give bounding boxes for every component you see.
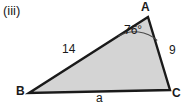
part-label: (iii): [3, 4, 20, 17]
vertex-label-a: A: [141, 1, 150, 13]
vertex-label-b: B: [16, 85, 25, 97]
vertex-label-c: C: [172, 87, 181, 99]
side-length-label-ac: 9: [169, 44, 176, 56]
side-length-label-bc: a: [96, 92, 103, 104]
side-length-label-ab: 14: [62, 43, 75, 55]
angle-measure-label-a: 76°: [124, 24, 142, 36]
geometry-figure: (iii) A B C 14 9 a 76°: [0, 0, 183, 106]
triangle-shape: [29, 17, 170, 93]
triangle-diagram: [0, 0, 183, 106]
